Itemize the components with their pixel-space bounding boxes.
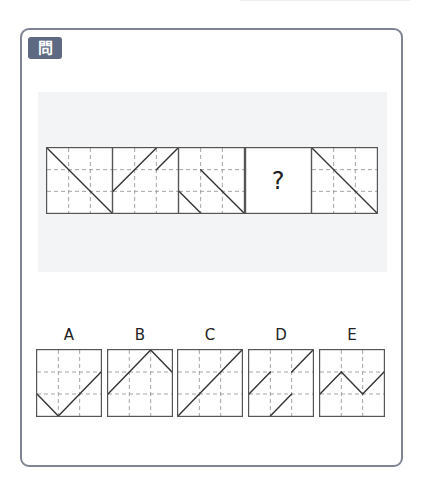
- sequence-box-1: [46, 147, 113, 214]
- option-box-d[interactable]: [248, 349, 314, 417]
- option-box-c[interactable]: [177, 349, 243, 417]
- option-label-d: D: [248, 326, 314, 344]
- sequence-box-unknown: ?: [245, 147, 312, 214]
- option-label-e: E: [319, 326, 385, 344]
- sequence-box-2: [112, 147, 179, 214]
- option-label-b: B: [107, 326, 173, 344]
- option-label-c: C: [177, 326, 243, 344]
- question-number-badge: 問14: [28, 37, 62, 59]
- top-decorative-rule: [240, 0, 410, 1]
- sequence-box-3: [178, 147, 245, 214]
- option-box-e[interactable]: [319, 349, 385, 417]
- option-box-a[interactable]: [36, 349, 102, 417]
- question-mark: ?: [245, 147, 312, 214]
- sequence-box-5: [311, 147, 378, 214]
- option-box-b[interactable]: [107, 349, 173, 417]
- option-label-a: A: [36, 326, 102, 344]
